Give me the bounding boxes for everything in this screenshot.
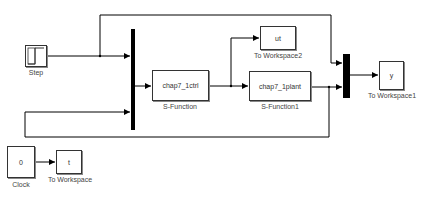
clock-label: Clock	[12, 181, 30, 188]
ut-content: ut	[275, 35, 281, 42]
s-function-ctrl-block[interactable]: chap7_1ctrl	[152, 70, 209, 101]
to-workspace-block[interactable]: t	[56, 150, 82, 174]
wire-step-to-mux2	[100, 15, 342, 63]
step-label: Step	[29, 69, 43, 76]
s-function-label: S-Function	[163, 103, 197, 110]
to-workspace-label: To Workspace	[48, 176, 92, 183]
s-function1-plant-block[interactable]: chap7_1plant	[249, 71, 311, 101]
ctrl-content: chap7_1ctrl	[162, 82, 198, 89]
step-icon	[26, 46, 46, 66]
to-workspace2-label: To Workspace2	[254, 52, 302, 59]
mux1-block[interactable]	[131, 29, 135, 130]
clock-content: 0	[19, 159, 23, 166]
y-content: y	[390, 72, 394, 79]
t-content: t	[68, 159, 70, 166]
mux2-block[interactable]	[343, 54, 350, 98]
to-workspace1-label: To Workspace1	[368, 92, 416, 99]
to-workspace2-block[interactable]: ut	[260, 26, 296, 50]
clock-block[interactable]: 0	[7, 146, 35, 178]
step-block[interactable]	[25, 45, 47, 67]
to-workspace1-block[interactable]: y	[379, 61, 404, 90]
s-function1-label: S-Function1	[261, 103, 299, 110]
plant-content: chap7_1plant	[259, 83, 301, 90]
